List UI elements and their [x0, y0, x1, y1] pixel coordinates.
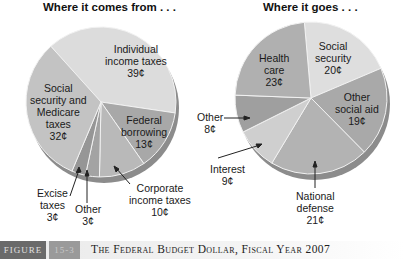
figure-caption: The Federal Budget Dollar, Fiscal Year 2…: [91, 243, 330, 255]
label-value: 20¢: [315, 64, 351, 76]
label-value: 13¢: [121, 138, 167, 150]
label-social-security-medicare: Social security and Medicare taxes 32¢: [30, 82, 87, 142]
label-health-care: Health care 23¢: [259, 52, 289, 88]
label-interest: Interest 9¢: [210, 163, 245, 187]
label-line: taxes: [37, 199, 68, 211]
label-line: Other: [335, 91, 379, 103]
label-line: security and: [30, 94, 87, 106]
label-national-defense: National defense 21¢: [296, 190, 335, 226]
label-value: 32¢: [30, 130, 87, 142]
label-line: Individual: [105, 43, 167, 55]
label-value: 23¢: [259, 76, 289, 88]
label-value: 10¢: [129, 206, 191, 218]
label-value: 19¢: [335, 115, 379, 127]
label-line: Social: [30, 82, 87, 94]
figure-caption-bar: FIGURE 15-3 The Federal Budget Dollar, F…: [0, 241, 404, 259]
label-line: Interest: [210, 163, 245, 175]
label-line: income taxes: [129, 194, 191, 206]
label-line: Other: [197, 111, 223, 123]
label-value: 39¢: [105, 67, 167, 79]
label-social-security: Social security 20¢: [315, 40, 351, 76]
label-line: Health: [259, 52, 289, 64]
label-other-spending: Other 8¢: [197, 111, 223, 135]
label-corporate-income-taxes: Corporate income taxes 10¢: [129, 182, 191, 218]
arrow-interest: [218, 145, 260, 158]
label-line: Medicare: [30, 106, 87, 118]
figure-label: FIGURE: [0, 241, 46, 259]
label-value: 3¢: [37, 211, 68, 223]
label-value: 3¢: [75, 215, 101, 227]
label-value: 9¢: [210, 175, 245, 187]
label-individual-income-taxes: Individual income taxes 39¢: [105, 43, 167, 79]
label-other-social-aid: Other social aid 19¢: [335, 91, 379, 127]
label-line: Excise: [37, 187, 68, 199]
label-line: Federal: [121, 114, 167, 126]
label-line: National: [296, 190, 335, 202]
label-value: 21¢: [296, 214, 335, 226]
label-line: Social: [315, 40, 351, 52]
label-line: taxes: [30, 118, 87, 130]
label-line: borrowing: [121, 126, 167, 138]
label-line: defense: [296, 202, 335, 214]
label-line: security: [315, 52, 351, 64]
label-line: Corporate: [129, 182, 191, 194]
label-other-revenue: Other 3¢: [75, 203, 101, 227]
label-line: social aid: [335, 103, 379, 115]
label-excise-taxes: Excise taxes 3¢: [37, 187, 68, 223]
label-line: Other: [75, 203, 101, 215]
figure-number: 15-3: [49, 241, 80, 259]
label-line: income taxes: [105, 55, 167, 67]
label-federal-borrowing: Federal borrowing 13¢: [121, 114, 167, 150]
label-line: care: [259, 64, 289, 76]
label-value: 8¢: [197, 123, 223, 135]
